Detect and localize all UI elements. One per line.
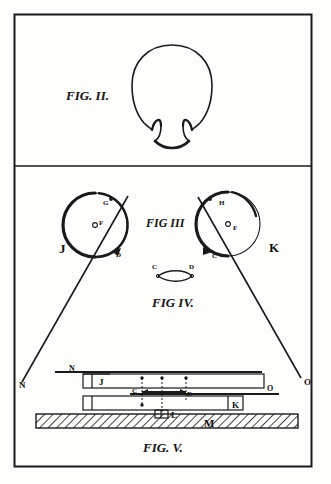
drawing-canvas: FIG. II. FIG III G F D J H F [0,0,331,484]
fig3-label-o: O [304,377,311,387]
fig5-label-d: D [187,390,192,398]
fig3-label-j: J [59,241,66,256]
fig5-node-center-top [160,376,163,379]
fig4-label-c: C [152,263,157,271]
fig5-label-n: N [69,364,75,373]
fig3-label-d: D [116,251,121,259]
fig3-label-f-left: F [99,219,103,227]
fig5-caption: FIG. V. [142,440,183,455]
fig3-label-h: H [219,199,225,207]
fig3-point-g [109,197,113,201]
fig3-point-h [208,197,212,201]
fig3-label-f-right: F [233,224,237,232]
fig5-node-right-top [184,376,187,379]
patent-drawing-sheet: FIG. II. FIG III G F D J H F [0,0,331,484]
fig4-caption: FIG IV. [151,295,194,310]
fig2-caption: FIG. II. [65,88,109,103]
fig3-label-n: N [19,380,26,390]
fig5-label-j: J [99,377,104,387]
fig5-label-k: K [232,400,239,410]
paper-background [0,0,331,484]
fig4-label-d: D [189,263,194,271]
fig5-label-o: O [267,384,273,393]
fig5-node-left-bottom [140,403,143,406]
fig5-label-m: M [204,417,215,429]
fig5-node-left-top [140,376,143,379]
fig3-label-g: G [103,199,109,207]
fig5-base-m [36,414,298,428]
fig5-label-c: C [132,387,137,395]
fig3-label-c: C [212,252,217,260]
fig3-label-k: K [269,240,280,255]
fig5-label-l: L [171,410,177,420]
fig3-caption: FIG III [145,216,186,230]
